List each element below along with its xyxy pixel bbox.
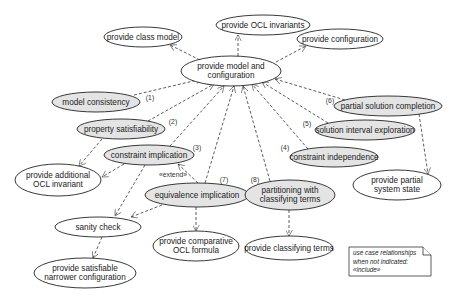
edge-number-label: (7) bbox=[220, 176, 228, 184]
use-case-provide-partial-system-state[interactable]: provide partialsystem state bbox=[353, 170, 441, 200]
use-case-diagram: provide OCL invariantsprovide class mode… bbox=[0, 0, 457, 296]
use-case-label: provide comparative bbox=[159, 237, 233, 246]
use-case-label: provide partial bbox=[371, 176, 423, 185]
edge-sanity-check-to-provide-satisfiable-narrower-configuration bbox=[93, 237, 102, 258]
note-text-line: «include» bbox=[353, 266, 381, 273]
use-case-label: provide classifying terms bbox=[244, 244, 334, 253]
use-case-provide-class-model[interactable]: provide class model bbox=[104, 27, 182, 47]
use-case-provide-satisfiable-narrower-configuration[interactable]: provide satisfiablenarrower configuratio… bbox=[34, 258, 136, 288]
edge-labels: (1)(2)(3)(4)(5)(6)(7)(8)«extend» bbox=[146, 94, 334, 184]
use-case-provide-additional-ocl-invariant[interactable]: provide additionalOCL invariant bbox=[15, 164, 101, 196]
use-case-label: constraint independence bbox=[289, 153, 379, 162]
use-case-provide-comparative-ocl-formula[interactable]: provide comparativeOCL formula bbox=[153, 231, 239, 261]
use-case-provide-model-and-configuration[interactable]: provide model andconfiguration bbox=[181, 56, 281, 86]
use-case-label: partial solution completion bbox=[341, 102, 436, 111]
edge-property-satisfiability-to-provide-additional-ocl-invariant bbox=[79, 139, 102, 166]
use-case-label: configuration bbox=[208, 71, 255, 80]
use-case-sanity-check[interactable]: sanity check bbox=[55, 217, 141, 237]
edge-constraint-independence-to-provide-model-and-configuration bbox=[252, 84, 308, 149]
edge-number-label: (1) bbox=[146, 94, 154, 102]
legend-note: use case relationshipswhen not indicated… bbox=[349, 247, 431, 276]
use-case-label: provide satisfiable bbox=[52, 264, 118, 273]
edge-constraint-implication-to-provide-model-and-configuration bbox=[170, 86, 224, 146]
use-case-constraint-independence[interactable]: constraint independence bbox=[289, 147, 379, 167]
edge-property-satisfiability-to-provide-model-and-configuration bbox=[148, 84, 214, 121]
use-case-label: property satisfiability bbox=[84, 125, 159, 134]
edge-model-consistency-to-provide-model-and-configuration bbox=[134, 79, 202, 95]
edge-partial-solution-completion-to-provide-model-and-configuration bbox=[275, 79, 345, 100]
edge-number-label: (4) bbox=[281, 144, 289, 152]
use-case-equivalence-implication[interactable]: equivalence implication bbox=[145, 183, 249, 207]
note-text-line: when not indicated: bbox=[353, 258, 408, 265]
use-case-label: sanity check bbox=[75, 223, 121, 232]
use-case-label: OCL invariant bbox=[33, 180, 83, 189]
extend-stereotype-label: «extend» bbox=[159, 171, 187, 178]
use-case-property-satisfiability[interactable]: property satisfiability bbox=[77, 119, 165, 139]
edge-partitioning-with-classifying-terms-to-provide-model-and-configuration bbox=[243, 86, 270, 181]
edge-number-label: (6) bbox=[326, 97, 334, 105]
use-case-partial-solution-completion[interactable]: partial solution completion bbox=[334, 96, 442, 116]
use-case-label: provide additional bbox=[26, 171, 90, 180]
use-case-provide-configuration[interactable]: provide configuration bbox=[297, 29, 383, 49]
note-text-line: use case relationships bbox=[353, 249, 417, 257]
use-case-label: provide configuration bbox=[302, 35, 378, 44]
edge-constraint-implication-to-sanity-check bbox=[115, 165, 145, 216]
use-case-label: provide model and bbox=[197, 62, 265, 71]
use-case-label: solution interval exploration bbox=[315, 126, 415, 135]
use-case-constraint-implication[interactable]: constraint implication bbox=[104, 145, 194, 165]
use-case-label: constraint implication bbox=[111, 151, 188, 160]
edge-equivalence-implication-to-sanity-check bbox=[131, 205, 162, 217]
edge-provide-model-and-configuration-to-provide-class-model bbox=[170, 45, 200, 60]
use-case-label: equivalence implication bbox=[155, 191, 240, 200]
use-case-solution-interval-exploration[interactable]: solution interval exploration bbox=[315, 120, 415, 140]
edge-partial-solution-completion-to-provide-partial-system-state bbox=[419, 114, 428, 174]
use-case-label: provide class model bbox=[107, 33, 180, 42]
use-case-label: partitioning with bbox=[262, 186, 319, 195]
use-case-label: OCL formula bbox=[173, 246, 220, 255]
use-case-label: system state bbox=[374, 185, 420, 194]
edge-number-label: (8) bbox=[251, 176, 259, 184]
edge-solution-interval-exploration-to-provide-model-and-configuration bbox=[262, 82, 328, 123]
use-case-label: model consistency bbox=[62, 98, 130, 107]
use-case-label: provide OCL invariants bbox=[222, 21, 305, 30]
use-case-label: classifying terms bbox=[260, 195, 321, 204]
use-case-provide-classifying-terms[interactable]: provide classifying terms bbox=[244, 236, 334, 260]
use-case-label: narrower configuration bbox=[44, 273, 126, 282]
edge-provide-model-and-configuration-to-provide-configuration bbox=[276, 46, 306, 62]
edge-number-label: (5) bbox=[303, 120, 311, 128]
use-case-provide-ocl-invariants[interactable]: provide OCL invariants bbox=[216, 15, 310, 35]
use-case-model-consistency[interactable]: model consistency bbox=[52, 92, 140, 112]
edge-equivalence-implication-to-provide-model-and-configuration bbox=[205, 86, 234, 183]
edge-constraint-implication-to-provide-additional-ocl-invariant bbox=[102, 164, 124, 177]
edge-number-label: (2) bbox=[169, 118, 177, 126]
use-case-partitioning-with-classifying-terms[interactable]: partitioning withclassifying terms bbox=[245, 180, 335, 210]
edge-number-label: (3) bbox=[193, 144, 201, 152]
